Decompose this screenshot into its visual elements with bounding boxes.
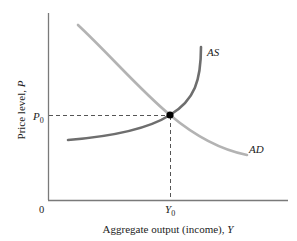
ad-as-chart: AS AD P0 Y0 0 Aggregate output (income),… (0, 0, 297, 241)
x-axis-label: Aggregate output (income), Y (103, 223, 236, 236)
origin-label: 0 (39, 204, 44, 215)
equilibrium-point (166, 111, 173, 118)
as-label: AS (206, 46, 220, 58)
y-axis-label: Price level, P (15, 80, 27, 139)
ad-label: AD (248, 143, 264, 155)
y0-tick-label: Y0 (165, 203, 175, 218)
as-curve (68, 47, 201, 140)
p0-tick-label: P0 (32, 110, 44, 125)
